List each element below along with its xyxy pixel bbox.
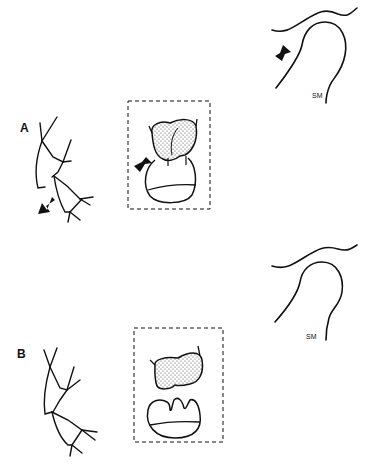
diagram-canvas (0, 0, 367, 466)
bone-sketch-b (44, 348, 97, 456)
joint-label-a: SM (312, 92, 323, 99)
arrow-icon (38, 197, 55, 214)
panel-label-a: A (20, 121, 29, 135)
arrow-icon (134, 157, 152, 172)
joint-view-b (272, 245, 357, 340)
panel-label-b: B (17, 347, 26, 361)
tooth-box-a (128, 101, 210, 209)
joint-view-a (272, 8, 357, 103)
tooth-box-b (134, 328, 223, 442)
bone-sketch-a (36, 117, 93, 222)
arrow-icon (275, 45, 291, 61)
joint-label-b: SM (306, 333, 317, 340)
